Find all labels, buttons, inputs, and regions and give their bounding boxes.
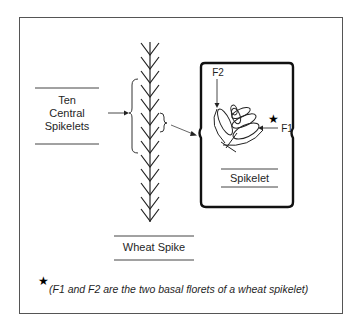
spikelet-label: Spikelet (221, 172, 278, 185)
footnote-text: (F1 and F2 are the two basal florets of … (49, 283, 339, 296)
wheat-spike-icon (141, 42, 159, 222)
central-spikelets-brace (129, 79, 138, 153)
spikelet-box (200, 63, 294, 207)
central-spikelets-label-line2: Central (30, 107, 104, 120)
central-spikelets-label: Ten Central Spikelets (30, 94, 104, 133)
f2-label: F2 (210, 66, 226, 79)
wheat-spike-label: Wheat Spike (114, 241, 194, 254)
spikelet-florets-icon (214, 104, 263, 152)
star-icon: ★ (267, 113, 279, 126)
single-spikelet-brace (160, 113, 167, 132)
central-spikelets-arrow-icon (108, 111, 129, 116)
f2-arrow-icon (215, 79, 220, 108)
central-spikelets-label-line1: Ten (30, 94, 104, 107)
diagram-canvas (0, 0, 359, 331)
footnote-star-icon: ★ (37, 275, 49, 288)
f1-arrow-icon (258, 126, 278, 131)
spikelet-zoom-arrow-icon (171, 125, 197, 136)
central-spikelets-label-line3: Spikelets (30, 120, 104, 133)
f1-label: F1 (279, 122, 295, 135)
